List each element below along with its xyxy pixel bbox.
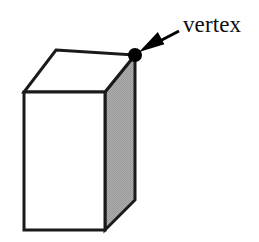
prism-front-face <box>24 92 105 230</box>
vertex-marker-dot <box>128 48 142 62</box>
figure-canvas: vertex <box>0 0 259 242</box>
callout-arrow-head <box>139 32 164 52</box>
vertex-label: vertex <box>183 13 241 36</box>
